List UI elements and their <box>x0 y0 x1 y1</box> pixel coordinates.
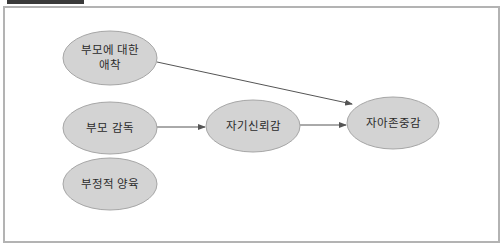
node-label-line-2: 애착 <box>99 58 121 72</box>
node-label: 자기신뢰감 <box>226 119 281 133</box>
node-self-confidence: 자기신뢰감 <box>206 100 300 152</box>
node-supervision: 부모 감독 <box>63 102 157 154</box>
node-label: 부정적 양육 <box>81 177 140 191</box>
node-label: 부모 감독 <box>86 121 134 135</box>
edge-attachment-to-self-esteem <box>157 62 352 104</box>
node-label-line-1: 부모에 대한 <box>81 43 140 57</box>
node-negative-parenting: 부정적 양육 <box>63 158 157 210</box>
node-attachment: 부모에 대한 애착 <box>63 31 157 85</box>
path-diagram: 부모에 대한 애착 부모 감독 부정적 양육 자기신뢰감 자아존중감 <box>0 0 502 249</box>
node-self-esteem: 자아존중감 <box>347 97 439 149</box>
node-label: 자아존중감 <box>366 116 421 130</box>
